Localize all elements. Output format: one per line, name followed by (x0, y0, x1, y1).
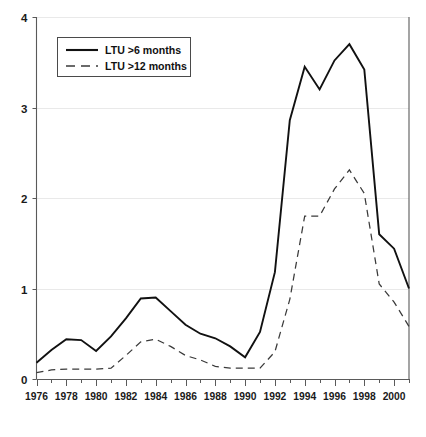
legend-label-ltu-12-months: LTU >12 months (105, 60, 187, 72)
x-tick-label-2000: 2000 (383, 391, 406, 402)
x-tick-label-1998: 1998 (353, 391, 376, 402)
y-tick-label-2: 2 (21, 193, 27, 205)
x-tick-label-1988: 1988 (204, 391, 227, 402)
y-axis-labels: 01234 (21, 12, 28, 386)
x-axis-labels: 1976197819801982198419861988199019921994… (25, 391, 406, 402)
legend-label-ltu-6-months: LTU >6 months (105, 44, 181, 56)
x-tick-label-1976: 1976 (25, 391, 48, 402)
x-tick-label-1994: 1994 (293, 391, 316, 402)
y-tick-label-4: 4 (21, 12, 28, 24)
x-tick-label-1984: 1984 (144, 391, 167, 402)
chart-figure: 01234 1976197819801982198419861988199019… (0, 0, 426, 437)
x-tick-label-1996: 1996 (323, 391, 346, 402)
series-line-ltu-6-months (37, 44, 410, 363)
y-axis-ticks (33, 18, 37, 380)
x-tick-label-1990: 1990 (234, 391, 257, 402)
chart-legend: LTU >6 months LTU >12 months (58, 38, 191, 77)
y-tick-label-1: 1 (21, 284, 28, 296)
line-chart: 01234 1976197819801982198419861988199019… (0, 0, 426, 437)
x-tick-label-1980: 1980 (85, 391, 108, 402)
x-tick-label-1992: 1992 (263, 391, 286, 402)
x-tick-label-1978: 1978 (55, 391, 78, 402)
x-tick-label-1986: 1986 (174, 391, 197, 402)
y-tick-label-0: 0 (21, 374, 27, 386)
y-tick-label-3: 3 (21, 103, 27, 115)
x-tick-label-1982: 1982 (114, 391, 137, 402)
